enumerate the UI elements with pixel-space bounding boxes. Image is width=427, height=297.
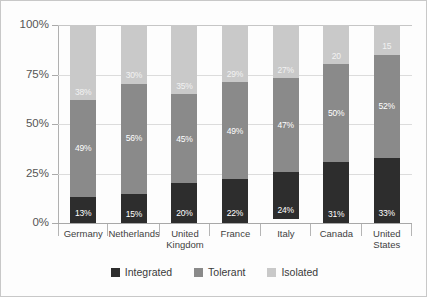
x-axis-category-italy: Italy	[261, 224, 311, 262]
bar-slot: 2050%31%	[311, 25, 362, 223]
category-label-line1: Italy	[261, 228, 311, 239]
bar-segment-value-label: 24%	[277, 206, 293, 215]
bar-segment-value-label: 49%	[227, 127, 243, 136]
stacked-bar[interactable]: 30%56%15%	[121, 25, 147, 223]
x-axis-category-france: France	[210, 224, 260, 262]
bar-segment-isolated[interactable]: 38%	[70, 25, 96, 100]
legend-label: Tolerant	[208, 267, 245, 278]
x-axis-category-germany: Germany	[58, 224, 108, 262]
bar-segment-value-label: 20%	[176, 209, 192, 218]
x-axis-category-united-states: UnitedStates	[362, 224, 412, 262]
bar-segment-tolerant[interactable]: 50%	[323, 64, 349, 162]
legend-label: Isolated	[281, 267, 318, 278]
bar-slot: 27%47%24%	[260, 25, 311, 223]
chart-legend: IntegratedTolerantIsolated	[1, 267, 427, 278]
stacked-bar[interactable]: 27%47%24%	[273, 25, 299, 223]
y-axis-tick-mark	[52, 174, 58, 175]
bar-segment-value-label: 22%	[227, 209, 243, 218]
bar-segment-isolated[interactable]: 35%	[171, 25, 197, 94]
bar-segment-integrated[interactable]: 13%	[70, 197, 96, 223]
bar-segment-tolerant[interactable]: 49%	[222, 82, 248, 179]
y-axis-tick-mark	[52, 223, 58, 224]
bar-slot: 38%49%13%	[58, 25, 109, 223]
y-axis-tick-mark	[52, 124, 58, 125]
category-label-line1: Canada	[311, 228, 361, 239]
bar-segment-value-label: 45%	[176, 135, 192, 144]
bar-segment-tolerant[interactable]: 45%	[171, 94, 197, 183]
y-axis-tick-mark	[52, 25, 58, 26]
stacked-bar-chart: 100%75%50%25%0% 38%49%13%30%56%15%35%45%…	[0, 0, 427, 297]
x-axis-categories: GermanyNetherlandsUnitedKingdomFranceIta…	[58, 224, 412, 262]
bar-segment-value-label: 30%	[126, 71, 142, 80]
bar-segment-value-label: 15%	[126, 210, 142, 219]
x-axis-category-united-kingdom: UnitedKingdom	[160, 224, 210, 262]
bar-segment-value-label: 27%	[277, 66, 293, 75]
legend-item-isolated[interactable]: Isolated	[267, 267, 318, 278]
stacked-bar[interactable]: 29%49%22%	[222, 25, 248, 223]
bar-slot: 1552%33%	[361, 25, 412, 223]
bar-segment-integrated[interactable]: 24%	[273, 172, 299, 220]
bar-segment-integrated[interactable]: 20%	[171, 183, 197, 223]
y-axis-tick-label: 50%	[5, 118, 49, 130]
bar-group: 38%49%13%30%56%15%35%45%20%29%49%22%27%4…	[58, 25, 412, 223]
y-axis-tick-mark	[52, 75, 58, 76]
bar-segment-isolated[interactable]: 29%	[222, 25, 248, 82]
bar-segment-value-label: 33%	[379, 209, 395, 218]
bar-segment-isolated[interactable]: 30%	[121, 25, 147, 84]
legend-swatch-icon	[111, 268, 120, 277]
bar-segment-value-label: 50%	[328, 109, 344, 118]
category-separator	[411, 224, 412, 236]
bar-segment-value-label: 20	[332, 52, 341, 61]
bar-segment-tolerant[interactable]: 56%	[121, 84, 147, 194]
stacked-bar[interactable]: 35%45%20%	[171, 25, 197, 223]
stacked-bar[interactable]: 2050%31%	[323, 25, 349, 223]
stacked-bar[interactable]: 38%49%13%	[70, 25, 96, 223]
bar-segment-value-label: 38%	[75, 88, 91, 97]
x-axis-category-netherlands: Netherlands	[108, 224, 159, 262]
legend-swatch-icon	[267, 268, 276, 277]
y-axis-labels: 100%75%50%25%0%	[1, 1, 49, 297]
legend-item-tolerant[interactable]: Tolerant	[194, 267, 245, 278]
bar-segment-tolerant[interactable]: 52%	[374, 55, 400, 158]
bar-slot: 29%49%22%	[210, 25, 261, 223]
y-axis-tick-label: 0%	[5, 217, 49, 229]
bar-segment-value-label: 56%	[126, 134, 142, 143]
bar-segment-integrated[interactable]: 15%	[121, 194, 147, 223]
category-label-line1: United	[160, 228, 210, 239]
bar-slot: 30%56%15%	[109, 25, 160, 223]
bar-segment-tolerant[interactable]: 49%	[70, 100, 96, 197]
bar-segment-integrated[interactable]: 31%	[323, 162, 349, 223]
bar-segment-isolated[interactable]: 20	[323, 25, 349, 64]
category-separator	[58, 224, 59, 236]
bar-segment-value-label: 49%	[75, 144, 91, 153]
bar-segment-value-label: 52%	[379, 102, 395, 111]
legend-item-integrated[interactable]: Integrated	[111, 267, 172, 278]
bar-segment-value-label: 29%	[227, 70, 243, 79]
bar-segment-tolerant[interactable]: 47%	[273, 78, 299, 171]
bar-slot: 35%45%20%	[159, 25, 210, 223]
legend-swatch-icon	[194, 268, 203, 277]
bar-segment-value-label: 15	[382, 42, 391, 51]
category-label-line1: Germany	[58, 228, 108, 239]
y-axis-tick-label: 25%	[5, 168, 49, 180]
bar-segment-integrated[interactable]: 22%	[222, 179, 248, 223]
category-label-line1: France	[210, 228, 260, 239]
bar-segment-isolated[interactable]: 15	[374, 25, 400, 55]
legend-label: Integrated	[125, 267, 172, 278]
category-label-line1: Netherlands	[108, 228, 159, 239]
category-label-line1: United	[362, 228, 412, 239]
bar-segment-integrated[interactable]: 33%	[374, 158, 400, 223]
category-label-line2: Kingdom	[160, 239, 210, 250]
bar-segment-value-label: 31%	[328, 210, 344, 219]
category-label-line2: States	[362, 239, 412, 250]
y-axis-tick-label: 100%	[5, 19, 49, 31]
y-axis-tick-label: 75%	[5, 69, 49, 81]
bar-segment-value-label: 13%	[75, 209, 91, 218]
bar-segment-value-label: 47%	[277, 121, 293, 130]
x-axis-category-canada: Canada	[311, 224, 361, 262]
bar-segment-value-label: 35%	[176, 82, 192, 91]
bar-segment-isolated[interactable]: 27%	[273, 25, 299, 78]
stacked-bar[interactable]: 1552%33%	[374, 25, 400, 223]
